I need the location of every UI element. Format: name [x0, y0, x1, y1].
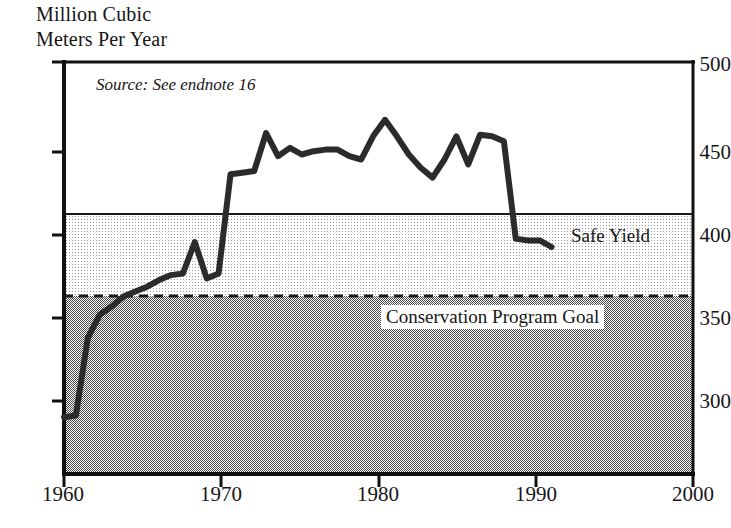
groundwater-withdrawal-chart: Million Cubic Meters Per Year 500 450 40… — [0, 0, 731, 528]
source-note: Source: See endnote 16 — [96, 75, 255, 95]
safe-yield-label: Safe Yield — [566, 224, 655, 248]
conservation-goal-label: Conservation Program Goal — [381, 305, 604, 329]
